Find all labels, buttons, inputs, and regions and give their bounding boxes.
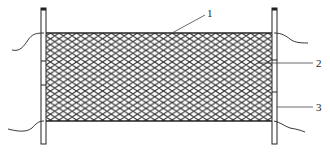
rope-right-top [274,33,308,43]
label-3: 3 [316,101,322,113]
label-1: 1 [207,7,213,19]
mesh-net [44,33,274,121]
rope-left-top [12,33,44,50]
leader-line-1 [172,15,205,33]
label-2: 2 [316,57,322,69]
rope-right-bottom [274,121,305,132]
rope-left-bottom [8,121,44,131]
right-pole [272,8,277,144]
net-diagram: 1 2 3 [0,0,330,155]
left-pole [41,8,46,144]
